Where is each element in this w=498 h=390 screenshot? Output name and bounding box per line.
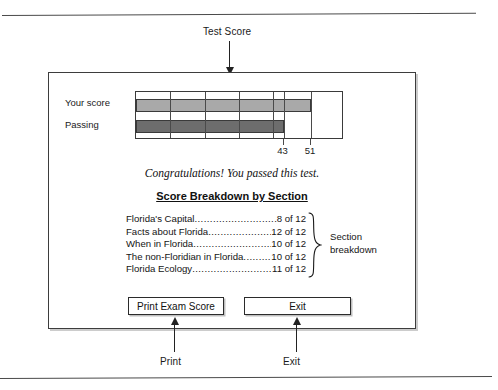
congratulations-message: Congratulations! You passed this test.	[49, 167, 415, 179]
section-name: When in Florida	[126, 238, 193, 251]
section-breakdown-brace-icon	[308, 212, 322, 278]
section-score: 11 of 12	[272, 263, 306, 276]
chart-gridline	[205, 92, 206, 138]
chart-gridline	[273, 92, 274, 138]
leader-dots: ............................	[193, 238, 271, 251]
callout-label-test-score: Test Score	[203, 26, 251, 37]
section-score: 10 of 12	[271, 251, 306, 264]
page-rule-bottom	[0, 376, 492, 379]
chart-category-your-score: Your score	[65, 97, 110, 108]
leader-dots: ........................	[208, 226, 271, 239]
callout-label-print: Print	[160, 356, 181, 367]
chart-bar-passing	[136, 120, 284, 133]
section-breakdown-brace-label: Section breakdown	[330, 231, 377, 256]
leader-dots: ...........	[243, 251, 271, 264]
chart-gridline	[170, 92, 171, 138]
list-item: Facts about Florida ....................…	[126, 226, 306, 239]
callout-arrow-print-icon	[174, 324, 175, 352]
leader-dots: ................................	[194, 213, 276, 226]
section-name: Florida's Capital	[126, 213, 194, 226]
callout-label-exit: Exit	[283, 356, 300, 367]
chart-gridline	[284, 92, 285, 138]
brace-label-line-1: Section	[330, 231, 377, 244]
chart-category-labels: Your score Passing	[65, 91, 127, 139]
section-name: Florida Ecology	[126, 263, 192, 276]
chart-plot-area	[135, 91, 343, 139]
callout-arrow-test-score-icon	[229, 41, 230, 68]
test-result-dialog: Your score Passing 4351 Congratulations!…	[48, 72, 416, 329]
leader-dots: ..............................	[192, 263, 272, 276]
chart-bar-your-score	[136, 99, 311, 112]
section-breakdown-list: Florida's Capital ......................…	[126, 213, 306, 276]
chart-gridline	[311, 92, 312, 138]
list-item: Florida Ecology ........................…	[126, 263, 306, 276]
callout-arrow-exit-icon	[296, 324, 297, 352]
list-item: Florida's Capital ......................…	[126, 213, 306, 226]
section-score: 8 of 12	[277, 213, 306, 226]
chart-tick-label: 43	[277, 145, 288, 156]
score-breakdown-heading: Score Breakdown by Section	[49, 190, 415, 202]
list-item: When in Florida ........................…	[126, 238, 306, 251]
chart-x-axis: 4351	[135, 139, 343, 156]
list-item: The non-Floridian in Florida ...........…	[126, 251, 306, 264]
chart-category-passing: Passing	[65, 119, 99, 130]
exit-button[interactable]: Exit	[244, 297, 351, 315]
section-name: Facts about Florida	[126, 226, 208, 239]
score-chart: Your score Passing 4351	[65, 91, 355, 156]
brace-label-line-2: breakdown	[330, 244, 377, 257]
chart-tick-label: 51	[305, 145, 316, 156]
chart-gridline	[239, 92, 240, 138]
print-exam-score-button[interactable]: Print Exam Score	[128, 297, 224, 315]
page-rule-top	[2, 13, 476, 16]
section-score: 12 of 12	[271, 226, 306, 239]
section-name: The non-Floridian in Florida	[126, 251, 243, 264]
section-score: 10 of 12	[271, 238, 306, 251]
